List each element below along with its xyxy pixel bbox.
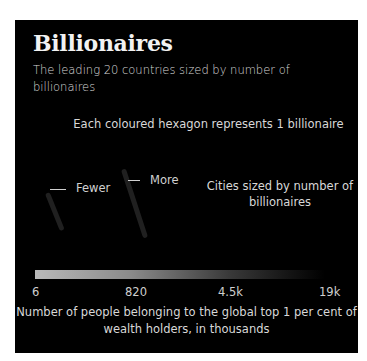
tick-820: 820 [125,285,147,299]
chart-subtitle: The leading 20 countries sized by number… [33,62,343,96]
more-label: More [150,173,179,187]
chart-title: Billionaires [33,30,173,56]
color-scale-bar [35,270,357,279]
scale-axis-label: Number of people belonging to the global… [15,304,358,338]
hexagon-note: Each coloured hexagon represents 1 billi… [15,117,358,131]
tick-19k: 19k [319,285,340,299]
more-dash [128,180,140,181]
fewer-dash [50,189,66,190]
fewer-label: Fewer [76,181,110,195]
tick-4-5k: 4.5k [218,285,243,299]
legend-panel: Billionaires The leading 20 countries si… [15,20,358,353]
tick-6: 6 [32,285,39,299]
size-legend-stroke-large [121,168,148,238]
size-legend-stroke-small [45,192,65,231]
cities-note: Cities sized by number of billionaires [205,178,355,210]
